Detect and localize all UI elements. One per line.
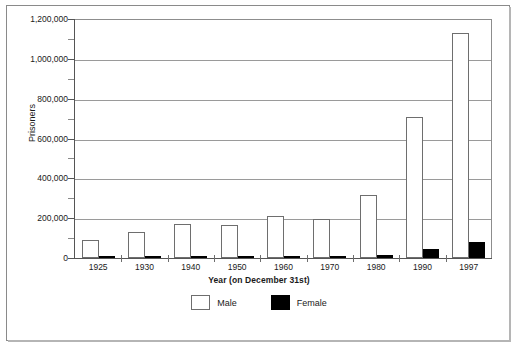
x-tick-label-1950: 1950 [214,262,260,272]
legend-label-female: Female [297,298,327,308]
chart-legend: Male Female [0,295,518,310]
bar-male-1930 [128,232,145,258]
x-axis-title: Year (on December 31st) [0,275,518,285]
bar-male-1990 [406,117,423,258]
bar-male-1950 [221,225,238,258]
x-tick-label-1960: 1960 [261,262,307,272]
bar-female-1970 [330,256,346,259]
bar-female-1980 [377,255,393,258]
y-tick-label: 1,000,000 [6,54,68,64]
bar-male-1970 [313,219,330,258]
y-tick-label: 0 [6,253,68,263]
bar-female-1997 [469,242,485,258]
bar-female-1990 [423,249,439,258]
bars-layer [75,19,492,258]
bar-male-1925 [82,240,99,258]
x-axis-line [74,258,492,259]
x-tick-label-1970: 1970 [307,262,353,272]
x-tick [168,255,169,262]
bar-female-1960 [284,256,300,259]
y-tick-label: 600,000 [6,134,68,144]
x-tick [121,255,122,262]
y-tick-label: 800,000 [6,94,68,104]
x-tick [353,255,354,262]
y-tick-label: 1,200,000 [6,14,68,24]
legend-label-male: Male [217,298,237,308]
y-tick-label: 400,000 [6,173,68,183]
x-tick [260,255,261,262]
bar-female-1930 [145,256,161,259]
x-tick-label-1930: 1930 [122,262,168,272]
x-tick-label-1940: 1940 [168,262,214,272]
legend-item-female: Female [271,295,327,310]
legend-swatch-male [191,295,210,310]
x-tick-label-1925: 1925 [75,262,121,272]
x-tick-label-1980: 1980 [353,262,399,272]
bar-female-1940 [191,256,207,259]
bar-female-1950 [238,256,254,259]
x-tick [446,255,447,262]
bar-female-1925 [99,256,115,259]
legend-item-male: Male [191,295,237,310]
bar-male-1960 [267,216,284,258]
x-tick [214,255,215,262]
chart-figure: Prisoners 0200,000400,000600,000800,0001… [0,0,518,348]
bar-male-1980 [360,195,377,258]
x-tick-label-1990: 1990 [400,262,446,272]
y-tick-label: 200,000 [6,213,68,223]
legend-swatch-female [271,295,290,310]
x-tick [399,255,400,262]
bar-male-1997 [452,33,469,258]
x-tick [307,255,308,262]
x-tick-label-1997: 1997 [446,262,492,272]
bar-male-1940 [174,224,191,258]
